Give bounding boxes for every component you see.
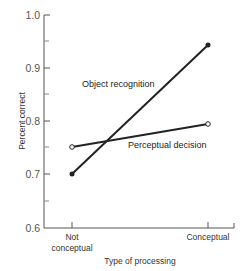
chart: 1.0 0.9 0.8 0.7 0.6 Percent correct Not … — [0, 0, 244, 271]
data-point — [206, 43, 211, 48]
ytick-label: 0.7 — [25, 168, 40, 180]
y-ticks — [44, 15, 50, 201]
xtick-label-not-line1: Not — [65, 232, 79, 242]
xtick-label-not-line2: conceptual — [51, 243, 92, 253]
ytick-label: 1.0 — [25, 9, 40, 21]
xtick-label-conceptual: Conceptual — [186, 232, 229, 242]
series-object-recognition — [70, 43, 211, 177]
ytick-label: 0.8 — [25, 115, 40, 127]
data-point — [70, 172, 75, 177]
data-point — [70, 145, 75, 150]
x-axis-title: Type of processing — [104, 256, 176, 266]
data-point — [206, 122, 211, 127]
ytick-label: 0.9 — [25, 62, 40, 74]
y-axis-title: Percent correct — [17, 92, 27, 150]
ytick-label: 0.6 — [25, 222, 40, 234]
series-label-perceptual-decision: Perceptual decision — [128, 140, 207, 150]
series-label-object-recognition: Object recognition — [82, 79, 155, 89]
